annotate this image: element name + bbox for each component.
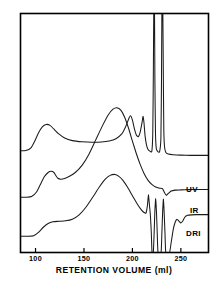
plot-frame <box>21 14 209 253</box>
x-axis-title: RETENTION VOLUME (ml) <box>56 265 172 275</box>
trace-label-ir: IR <box>190 206 199 215</box>
x-tick-label-200: 200 <box>126 254 139 263</box>
x-tick-label-150: 150 <box>78 254 91 263</box>
trace-label-dri: DRI <box>186 229 201 238</box>
chart-canvas: 100150200250 RETENTION VOLUME (ml) UV IR… <box>0 0 224 284</box>
x-axis-tick-labels: 100150200250 <box>29 254 187 263</box>
chromatogram-figure: 100150200250 RETENTION VOLUME (ml) UV IR… <box>0 0 224 284</box>
x-tick-label-100: 100 <box>29 254 42 263</box>
x-tick-label-250: 250 <box>174 254 187 263</box>
trace-label-uv: UV <box>186 185 198 194</box>
